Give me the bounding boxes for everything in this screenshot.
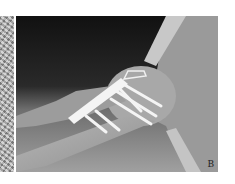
adjacent-xray-panel xyxy=(0,16,14,172)
xray-panel-b: B xyxy=(16,16,218,172)
panel-label: B xyxy=(207,159,214,169)
xray-image xyxy=(16,16,218,172)
